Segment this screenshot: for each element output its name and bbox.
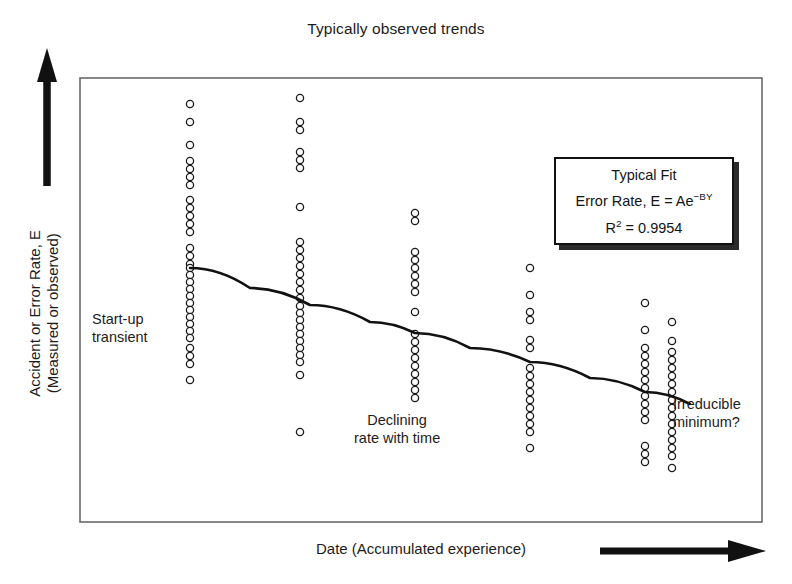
data-point xyxy=(526,344,533,351)
data-point xyxy=(296,351,303,358)
data-point xyxy=(186,196,193,203)
data-point xyxy=(296,323,303,330)
data-point xyxy=(296,302,303,309)
data-point xyxy=(186,292,193,299)
data-point xyxy=(411,209,418,216)
data-point xyxy=(641,400,648,407)
legend-formula: Error Rate, E = Ae−BY xyxy=(556,192,732,210)
data-point xyxy=(526,404,533,411)
data-point xyxy=(186,278,193,285)
data-point xyxy=(526,316,533,323)
data-point xyxy=(526,336,533,343)
data-point xyxy=(411,394,418,401)
plot-frame xyxy=(80,78,762,522)
data-point xyxy=(668,444,675,451)
data-point xyxy=(668,380,675,387)
x-axis-label: Date (Accumulated experience) xyxy=(316,540,526,558)
data-point xyxy=(668,318,675,325)
data-point xyxy=(186,141,193,148)
annotation-startup-line2: transient xyxy=(92,329,148,345)
data-point xyxy=(526,396,533,403)
data-point xyxy=(526,412,533,419)
data-point xyxy=(296,238,303,245)
data-point xyxy=(296,309,303,316)
data-point xyxy=(186,327,193,334)
data-column xyxy=(296,94,303,435)
data-point xyxy=(186,285,193,292)
data-point xyxy=(641,408,648,415)
annotation-declining-line2: rate with time xyxy=(354,430,440,446)
data-point xyxy=(641,376,648,383)
data-point xyxy=(668,372,675,379)
data-column xyxy=(526,264,533,451)
data-point xyxy=(186,360,193,367)
data-point xyxy=(296,94,303,101)
data-point xyxy=(296,428,303,435)
data-point xyxy=(296,254,303,261)
data-point xyxy=(186,334,193,341)
data-point xyxy=(526,364,533,371)
data-point xyxy=(411,288,418,295)
data-point xyxy=(296,203,303,210)
data-point xyxy=(186,271,193,278)
right-arrow-icon xyxy=(600,540,766,562)
data-point xyxy=(186,344,193,351)
data-point xyxy=(641,458,648,465)
data-point xyxy=(526,308,533,315)
data-point xyxy=(186,204,193,211)
annotation-startup-transient: Start-up transient xyxy=(92,311,148,347)
y-axis-label-line1: Accident or Error Rate, E xyxy=(26,230,43,397)
data-point xyxy=(641,416,648,423)
data-point xyxy=(186,157,193,164)
legend-box: Typical Fit Error Rate, E = Ae−BY R2 = 0… xyxy=(554,157,734,245)
data-point xyxy=(411,256,418,263)
data-point xyxy=(296,337,303,344)
data-point xyxy=(296,148,303,155)
data-point xyxy=(296,344,303,351)
data-point xyxy=(186,228,193,235)
data-point xyxy=(668,452,675,459)
annotation-declining-line1: Declining xyxy=(367,412,427,428)
data-point xyxy=(296,270,303,277)
chart-figure: Typically observed trends Accident or Er… xyxy=(0,0,792,584)
data-point xyxy=(411,354,418,361)
data-point xyxy=(668,464,675,471)
data-point xyxy=(296,358,303,365)
legend-formula-base: Error Rate, E = Ae xyxy=(576,193,694,209)
data-point xyxy=(641,392,648,399)
data-column xyxy=(641,299,648,465)
data-point xyxy=(411,378,418,385)
data-point xyxy=(641,450,648,457)
annotation-irreducible-line1: Irreducible xyxy=(673,396,741,412)
data-point xyxy=(668,348,675,355)
data-point xyxy=(526,380,533,387)
data-point xyxy=(296,278,303,285)
data-point xyxy=(186,313,193,320)
plot-canvas xyxy=(0,0,792,584)
data-point xyxy=(186,173,193,180)
data-point xyxy=(411,248,418,255)
data-point xyxy=(526,388,533,395)
legend-r-exponent: 2 xyxy=(616,218,621,229)
data-point xyxy=(296,330,303,337)
y-axis-label: Accident or Error Rate, E (Measured or o… xyxy=(26,173,63,453)
data-point xyxy=(296,156,303,163)
data-point xyxy=(641,368,648,375)
data-point xyxy=(411,217,418,224)
data-point xyxy=(186,165,193,172)
data-point xyxy=(186,376,193,383)
data-point xyxy=(668,364,675,371)
data-point xyxy=(668,337,675,344)
annotation-irreducible-line2: minimum? xyxy=(673,414,740,430)
data-point xyxy=(526,372,533,379)
data-point xyxy=(411,308,418,315)
data-point xyxy=(186,306,193,313)
data-point xyxy=(296,246,303,253)
data-point xyxy=(411,338,418,345)
data-point xyxy=(296,316,303,323)
data-point xyxy=(296,262,303,269)
annotation-startup-line1: Start-up xyxy=(92,311,144,327)
data-point xyxy=(411,272,418,279)
data-point xyxy=(641,442,648,449)
data-point xyxy=(186,244,193,251)
